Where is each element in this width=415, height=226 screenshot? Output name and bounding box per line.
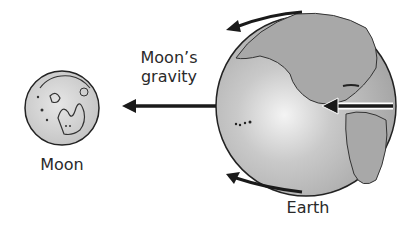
moon-icon [25,71,99,145]
moon-label: Moon [30,155,94,174]
diagram-canvas [0,0,415,226]
moon-gravity-arrow-icon [122,99,216,113]
moon-gravity-label-line1: Moon’s [128,48,210,67]
earth-label: Earth [268,198,348,217]
moon-gravity-label-line2: gravity [128,67,210,86]
moon-gravity-label: Moon’s gravity [128,48,210,86]
